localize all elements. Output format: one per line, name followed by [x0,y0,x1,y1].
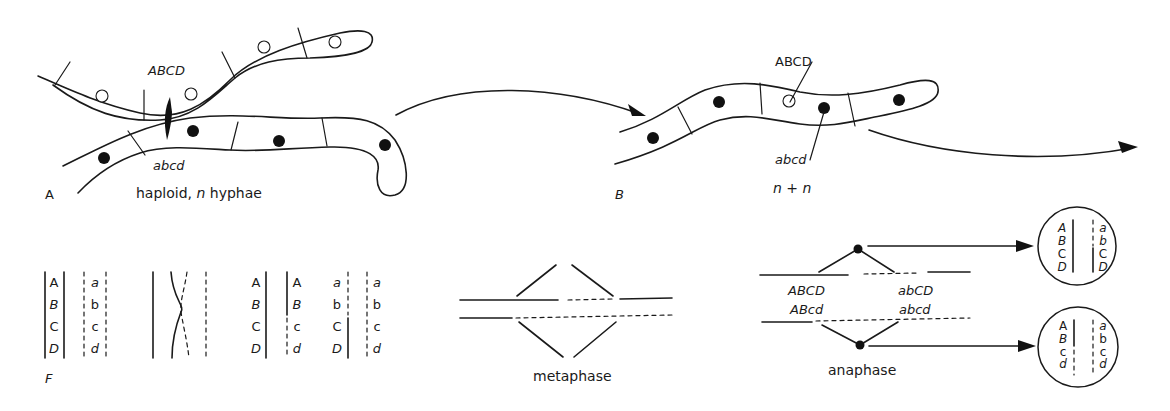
gene-label: a [330,276,344,289]
gene-label: c [290,320,304,333]
fusion-bridge [165,97,172,140]
caption-n: n [773,180,782,196]
gene-label: A [1056,320,1070,332]
gene-label: D [47,342,61,355]
gene-label: a [88,276,102,289]
open-nucleus-label: ABCD [775,55,812,68]
gene-label: d [370,342,384,355]
gene-label: D [249,342,263,355]
caption-prefix: haploid, [136,185,196,201]
metaphase-label: metaphase [533,369,612,383]
gene-label: c [370,320,384,333]
gene-label: b [330,298,344,311]
panel-letter-b: B [615,188,624,201]
gene-label: B [1055,235,1069,247]
gene-label: A [47,276,61,289]
anaphase-genotype: abcd [899,303,931,316]
panel-a-caption: haploid, n hyphae [136,186,262,200]
haploid-nucleus-filled [187,125,199,137]
gene-label: b [1096,333,1110,345]
diagram-canvas [0,0,1170,411]
gene-label: D [1055,261,1069,273]
haploid-nucleus-filled [273,135,285,147]
gene-label: d [290,342,304,355]
gene-label: d [1096,358,1110,370]
gene-label: D [330,342,344,355]
dikaryon-nucleus-filled [713,96,725,108]
gene-label: b [370,298,384,311]
lower-hypha-genotype: abcd [153,159,185,172]
crossing-over-chromatids [153,272,206,358]
gene-label: C [47,320,61,333]
gene-label: C [330,320,344,333]
haploid-nucleus-filled [98,152,110,164]
anaphase-genotype: ABcd [790,303,823,316]
gene-label: b [88,298,102,311]
gene-label: B [47,298,61,311]
upper-hypha [38,28,372,120]
upper-hypha-genotype: ABCD [148,64,185,77]
gene-label: A [290,276,304,289]
gene-label: b [1096,235,1110,247]
metaphase-spindle [460,265,672,357]
gene-label: a [370,276,384,289]
gene-label: A [249,276,263,289]
arrow-b-onward [869,130,1138,156]
caption-suffix: hyphae [205,185,262,201]
gene-label: c [88,320,102,333]
dikaryon-nucleus-filled [893,94,905,106]
gene-label: B [290,298,304,311]
haploid-nucleus-open [96,90,108,102]
haploid-nucleus-open [185,88,197,100]
panel-b-caption: n + n [773,181,811,195]
gene-label: C [1055,248,1069,260]
gene-label: d [88,342,102,355]
haploid-nucleus-filled [379,139,391,151]
anaphase-genotype: ABCD [788,284,825,297]
dikaryon-nucleus-filled [647,132,659,144]
gene-label: B [249,298,263,311]
anaphase-label: anaphase [828,363,896,377]
gene-label: A [1055,222,1069,234]
gene-label: C [249,320,263,333]
haploid-nucleus-open [329,36,341,48]
gene-label: C [1096,248,1110,260]
arrow-a-to-b [396,90,646,116]
panel-letter-a: A [45,188,54,201]
pointer-abcd-lower [810,112,824,160]
lower-hypha [63,116,406,196]
recombinant-chromatids [266,272,367,358]
caption-plus: + [786,180,798,196]
panel-letter-f: F [45,372,52,385]
anaphase-genotype: abCD [898,284,933,297]
gene-label: B [1056,333,1070,345]
gene-label: a [1096,222,1110,234]
gene-label: D [1096,261,1110,273]
filled-nucleus-label: abcd [775,153,807,166]
haploid-nucleus-open [258,41,270,53]
gene-label: d [1056,358,1070,370]
caption-n: n [803,180,812,196]
gene-label: a [1096,320,1110,332]
